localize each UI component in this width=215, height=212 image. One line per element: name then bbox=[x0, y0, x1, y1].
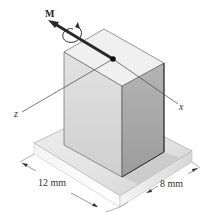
moment-label: M bbox=[45, 8, 55, 19]
rotation-arrowhead-icon bbox=[75, 22, 80, 29]
moment-application-point bbox=[110, 56, 116, 62]
z-axis-label: z bbox=[13, 108, 18, 119]
dimension-8mm-label: 8 mm bbox=[160, 178, 183, 189]
dimension-12mm-label: 12 mm bbox=[38, 177, 66, 188]
beam-diagram: z x M 12 mm 8 mm bbox=[0, 0, 215, 212]
x-axis-label: x bbox=[178, 101, 184, 112]
